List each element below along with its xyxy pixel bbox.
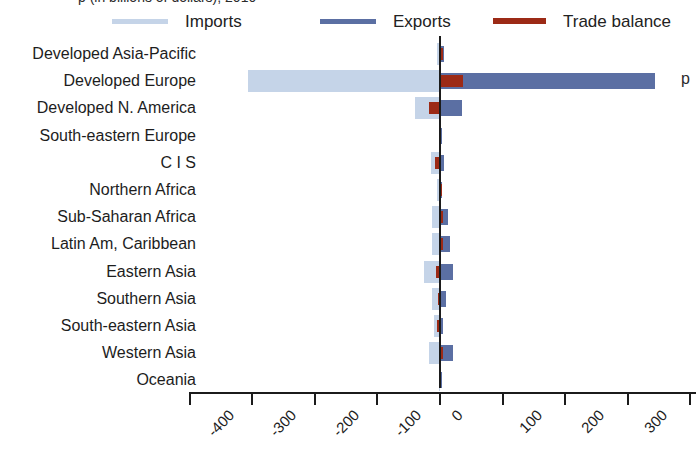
legend-label-exports: Exports bbox=[393, 13, 451, 30]
x-axis-tick bbox=[564, 392, 566, 405]
legend-item-imports[interactable]: Imports bbox=[112, 8, 242, 34]
bar-exports bbox=[440, 100, 462, 116]
x-axis-tick-label: -200 bbox=[330, 407, 362, 439]
legend-item-trade-balance[interactable]: Trade balance bbox=[493, 8, 671, 34]
bar-exports bbox=[440, 73, 655, 89]
x-axis-tick-label: 0 bbox=[448, 407, 465, 424]
x-axis: -400-300-200-1000100200300400 bbox=[0, 392, 696, 456]
bars-layer bbox=[0, 34, 696, 398]
legend-item-exports[interactable]: Exports bbox=[320, 8, 451, 34]
legend-swatch-imports bbox=[112, 19, 168, 24]
bar-exports bbox=[440, 264, 453, 280]
legend-swatch-trade-balance bbox=[493, 18, 546, 24]
x-axis-tick bbox=[627, 392, 629, 405]
x-axis-line bbox=[189, 392, 696, 394]
x-axis-tick bbox=[502, 392, 504, 405]
x-axis-tick-label: 200 bbox=[578, 407, 606, 435]
x-axis-tick-label: -300 bbox=[267, 407, 299, 439]
x-axis-tick bbox=[251, 392, 253, 405]
x-axis-tick bbox=[439, 392, 441, 405]
legend-label-trade-balance: Trade balance bbox=[563, 13, 671, 30]
edge-cutoff-glyph: p bbox=[681, 70, 690, 88]
x-axis-tick bbox=[189, 392, 191, 405]
x-axis-tick-label: 300 bbox=[641, 407, 669, 435]
x-axis-tick bbox=[689, 392, 691, 405]
bar-imports bbox=[248, 70, 440, 92]
chart-legend: Imports Exports Trade balance bbox=[0, 8, 696, 34]
legend-label-imports: Imports bbox=[185, 13, 242, 30]
x-axis-tick-label: 100 bbox=[516, 407, 544, 435]
legend-swatch-exports bbox=[320, 19, 376, 24]
x-axis-tick bbox=[376, 392, 378, 405]
x-axis-tick bbox=[314, 392, 316, 405]
x-axis-tick-label: -100 bbox=[392, 407, 424, 439]
x-axis-tick-label: -400 bbox=[205, 407, 237, 439]
bar-trade-balance bbox=[440, 75, 463, 87]
zero-axis-line bbox=[439, 36, 441, 388]
cutoff-title-text: p (in billions of dollars), 2010 bbox=[78, 0, 256, 5]
plot-area: Developed Asia-PacificDeveloped EuropeDe… bbox=[0, 34, 696, 398]
